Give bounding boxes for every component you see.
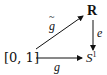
lift-label: g — [49, 20, 55, 32]
covering-label: e — [97, 27, 102, 39]
lift-arrow — [36, 16, 83, 49]
node-circle: S1 — [86, 51, 97, 64]
node-interval: [0, 1] — [4, 51, 39, 64]
path-label: g — [54, 61, 60, 73]
node-circle-superscript: 1 — [93, 50, 97, 59]
node-reals: R — [87, 4, 97, 18]
lift-label-text: g — [49, 20, 55, 32]
